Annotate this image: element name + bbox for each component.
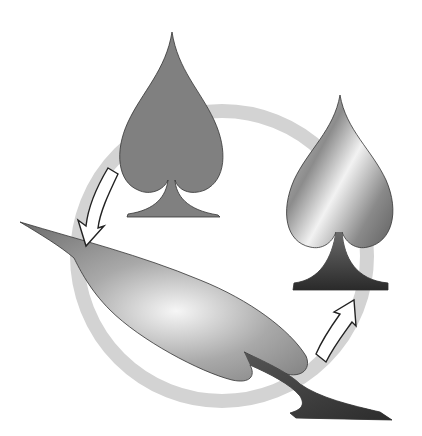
diagram-svg: [0, 0, 422, 436]
shaded-spade: [287, 95, 393, 290]
flat-spade: [120, 32, 223, 217]
diagram-canvas: Spade transformation cycle: [0, 0, 422, 436]
